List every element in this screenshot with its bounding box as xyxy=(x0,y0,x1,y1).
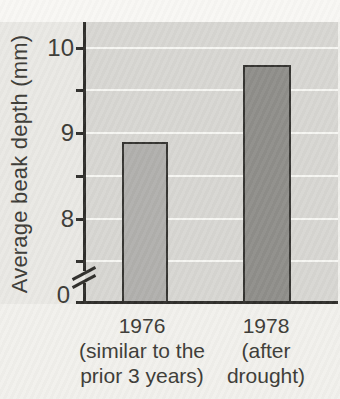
y-axis-title: Average beak depth (mm) xyxy=(7,35,33,294)
chart-figure: 0 Average beak depth (mm) 1976 (similar … xyxy=(0,0,340,399)
x-axis-line xyxy=(76,301,338,304)
y-tick-8 xyxy=(76,218,84,221)
y-tick-7.5 xyxy=(76,260,84,263)
x-category-1978-year: 1978 xyxy=(191,313,340,338)
y-tick-8.5 xyxy=(76,175,84,178)
x-category-1978-note-line1: (after xyxy=(191,338,340,363)
x-category-1978-note-line2: drought) xyxy=(191,363,340,388)
bar-1976 xyxy=(122,142,168,304)
gridline-9.5 xyxy=(85,89,338,91)
y-tick-10 xyxy=(76,47,84,50)
y-tick-label-9: 9 xyxy=(0,119,74,147)
gridline-10 xyxy=(85,47,338,49)
x-category-label-1978: 1978 (after drought) xyxy=(191,313,340,388)
y-tick-9.5 xyxy=(76,89,84,92)
gridline-9 xyxy=(85,132,338,134)
y-axis-line-upper xyxy=(83,22,86,271)
y-tick-label-10: 10 xyxy=(0,34,74,62)
y-tick-label-8: 8 xyxy=(0,205,74,233)
y-tick-9 xyxy=(76,132,84,135)
page-margin-top xyxy=(0,0,340,22)
bar-1978 xyxy=(243,65,291,304)
